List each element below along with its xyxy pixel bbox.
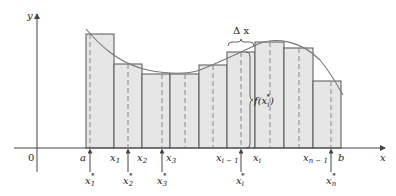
sample-label-xi-star: xi* [236,172,245,188]
partition-label-x2: x2 [137,152,148,165]
partition-labels: a x1 x2 x3 xi − 1 xi xn − 1 b [80,152,344,165]
riemann-sum-diagram: y x 0 Δ x f(xi*) a x1 x2 x3 xi − 1 xi xn… [0,0,396,196]
delta-x-label: Δ x [233,25,249,36]
sample-label-x2-star: x2* [123,172,134,188]
y-axis-label: y [26,10,33,21]
x-axis-label: x [380,152,386,163]
sample-label-x3-star: x3* [157,172,168,188]
sample-label-xn-star: xn* [326,172,337,188]
rectangle-9 [313,81,341,148]
partition-label-b: b [338,152,344,163]
sample-arrows [90,151,331,172]
origin-label: 0 [28,152,34,163]
partition-label-a: a [80,152,86,163]
sample-label-x1-star: x1* [85,172,95,188]
rectangle-3 [142,74,170,148]
partition-label-xn-1: xn − 1 [303,152,328,165]
partition-label-x1: x1 [110,152,120,165]
sample-labels: x1* x2* x3* xi* xn* [85,172,337,188]
partition-label-x3: x3 [166,152,177,165]
partition-label-xi: xi [253,152,261,165]
partition-label-xi-1: xi − 1 [216,152,239,165]
delta-x-brace: Δ x [228,25,254,46]
